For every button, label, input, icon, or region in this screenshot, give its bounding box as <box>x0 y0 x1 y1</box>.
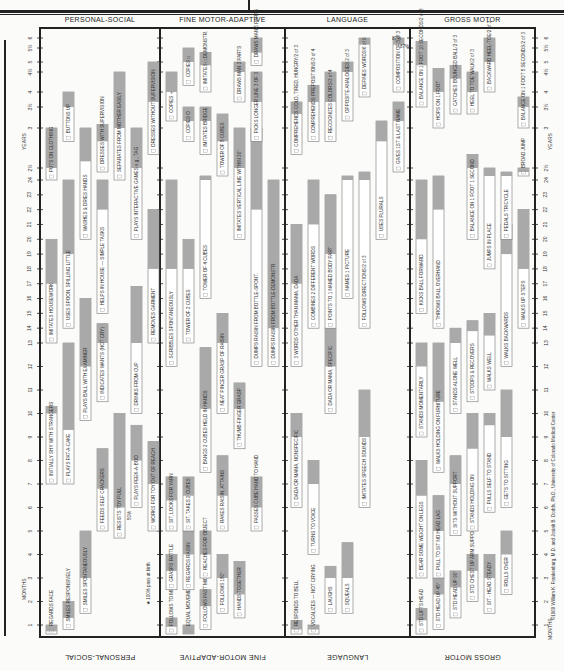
item-bar: PLAYS BALL WITH EXAMINER <box>80 299 91 421</box>
tick-label-left: 2 <box>27 600 33 603</box>
item-label: WORKS FOR TOY OUT OF REACH <box>151 448 156 523</box>
item-label: SIT, TAKES 2 CUBES <box>186 478 191 523</box>
tick-label-left: 1 <box>27 623 33 626</box>
item-label: STD LIFTS HEAD <box>419 588 424 626</box>
item-bar-shaded <box>359 172 370 180</box>
percent-87-a: 87% <box>392 36 401 41</box>
item-bar: STANDS MOMENTARILY <box>416 343 427 437</box>
item-bar-shaded <box>518 210 529 269</box>
item-label: OPPOSITE ANALOGIES 2 of 3 <box>345 49 350 113</box>
item-bar: REACHES FOR OBJECT <box>200 517 211 578</box>
item-bar: IMITATES HOUSEWORK <box>46 239 57 343</box>
tick-label-right: 11 <box>543 387 549 392</box>
item-label: SQUEALS <box>345 584 350 606</box>
item-bar: ROLLS OVER <box>501 531 512 594</box>
item-bar-shaded <box>200 176 211 180</box>
item-label: REGARDS RAISIN <box>186 542 191 581</box>
item-bar: DRESSES WITH SUPERVISION <box>97 96 108 172</box>
item-label: PLAYS INTERACTIVE GAMES e.g., TAG <box>134 146 139 231</box>
tick-label-left: 24 <box>27 177 33 183</box>
item-bar-shaded <box>484 414 495 426</box>
item-bar: REGARDS FACE <box>46 590 57 634</box>
item-label: BEAR SOME WEIGHT ON LEGS <box>419 501 424 570</box>
item-label: SITS WITHOUT SUPPORT <box>453 471 458 527</box>
item-bar: USES SPOON, SPILLING LITTLE <box>63 180 74 328</box>
item-bar: RESPONDS TO BELL <box>291 580 302 634</box>
item-label: STD CHEST UP ARM SUPPORT <box>470 525 475 593</box>
item-bar-shaded <box>97 180 108 210</box>
item-label: NEAT PINCER GRASP OF RAISIN <box>220 334 225 406</box>
item-bar: PULL TO SIT NO HEAD LAG <box>433 496 444 578</box>
item-bar: POINTS TO 1 NAMED BODY PART <box>325 195 336 328</box>
item-label: IMITATES HOUSEWORK <box>49 282 54 335</box>
item-label: INDICATES WANTS (NOT CRY) <box>100 327 105 394</box>
item-label: PLAYS PAT-A-CAKE <box>66 434 71 476</box>
item-bar: TOWER OF 8 CUBES <box>217 114 228 176</box>
months-label-right: MONTHS <box>547 618 553 640</box>
tick-label-left: 15 <box>27 310 33 316</box>
tick-label-right: 20 <box>543 236 549 242</box>
item-bar: WALKS UP STEPS <box>518 210 529 329</box>
item-label: GETS TO SITTING <box>504 460 509 500</box>
item-label: PUTS ON CLOTHING <box>49 126 54 172</box>
item-bar: COPIES O <box>183 107 194 141</box>
item-label: GIVES 1ST & LAST NAME <box>396 109 401 164</box>
item-label: DUMPS RAISIN FROM BOTTLE-SPONT. <box>254 273 259 358</box>
item-label: RESPONDS TO BELL <box>294 580 299 626</box>
item-bar-shaded <box>291 224 302 283</box>
tick-label-left: 3 <box>27 126 33 129</box>
tick-label-right: 3 <box>543 126 549 129</box>
item-label: STANDS ALONE WELL <box>453 356 458 405</box>
item-label: PULL TO SIT NO HEAD LAG <box>436 510 441 570</box>
tick-label-right: 3½ <box>543 103 549 111</box>
item-bar: BALANCE ON 1 FOOT 5 SECONDS/2 of 3 <box>518 32 529 128</box>
item-label: SCRIBBLES SPONTANEOUSLY <box>169 291 174 358</box>
item-bar: CATCHES BOUNCED BALL/2 of 3 <box>450 34 461 114</box>
item-label: CATCHES BOUNCED BALL/2 of 3 <box>453 34 458 106</box>
tick-label-right: 9 <box>543 435 549 438</box>
item-bar: STD CHEST UP ARM SUPPORT <box>467 525 478 601</box>
tick-label-left: 14 <box>27 325 33 331</box>
item-bar-shaded <box>342 176 353 180</box>
item-bar: DUMPS RAISIN FROM BOTTLE-SPONT. <box>251 128 262 367</box>
tick-label-left: 4 <box>27 90 33 93</box>
item-label: STANDS HOLDING ON <box>470 474 475 523</box>
item-bar: STD HEAD UP 90° <box>450 571 461 618</box>
tick-label-right: 12 <box>543 364 549 370</box>
item-bar-shaded <box>359 390 370 437</box>
item-label: DRAWS MAN 6 PARTS <box>254 9 259 57</box>
item-label: PICKS LONGER LINE 3 OF 3 <box>254 72 259 134</box>
item-label: SIT - HEAD STEADY <box>487 562 492 606</box>
item-bar: PUTS ON CLOTHING <box>46 126 57 180</box>
item-label: RESISTS TOY PULL <box>117 487 122 530</box>
tick-label-left: 6 <box>27 506 33 509</box>
tick-label-right: 21 <box>543 221 549 227</box>
item-bar-shaded <box>484 313 495 335</box>
item-bar: IMITATES VERTICAL LINE WITHIN 30° <box>234 128 245 239</box>
item-bar: IMITATES BRIDGE <box>200 107 211 155</box>
item-label: BACKWARD HEEL-TOE/2 of 3 <box>487 20 492 84</box>
item-bar: STANDS HOLDING ON <box>467 414 478 532</box>
copyright-note: ©1969 William K. Frankenburg, M.D. and J… <box>550 411 556 620</box>
item-label: SIT, LOOKS FOR YARN <box>169 473 174 523</box>
item-bar-shaded <box>80 128 91 161</box>
item-bar-shaded <box>416 461 427 496</box>
item-bar: PULLS SELF TO STAND <box>484 414 495 513</box>
item-label: DRINKS FROM CUP <box>134 362 139 405</box>
tick-label-left: 16 <box>27 296 33 302</box>
item-label: POINTS TO 1 NAMED BODY PART <box>328 246 333 320</box>
item-label: COPIES + <box>169 91 174 113</box>
tick-label-left: 12 <box>27 364 33 370</box>
tick-label-left: 8 <box>27 459 33 462</box>
item-bar: WORKS FOR TOY OUT OF REACH <box>148 442 159 531</box>
item-bar: THROWS BALL OVERHAND <box>433 176 444 328</box>
item-bar: BUTTONS UP <box>63 92 74 141</box>
item-bar: STD LIFTS HEAD <box>416 588 427 634</box>
item-label: NAMES 1 PICTURE <box>345 249 350 291</box>
item-bar: COPIES □ <box>183 48 194 85</box>
item-label: HELPS IN HOUSE — SIMPLE TASKS <box>100 227 105 305</box>
item-label: SEPARATES FROM MOTHER EASILY <box>117 92 122 172</box>
item-bar-shaded <box>183 239 194 269</box>
item-label: WALKS UP STEPS <box>521 280 526 320</box>
tick-label-right: 13 <box>543 340 549 346</box>
